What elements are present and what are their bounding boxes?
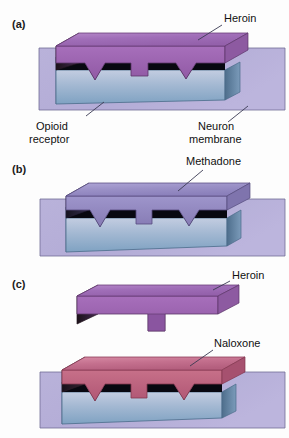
panel-c-label: (c) [12,278,26,290]
heroin-label-a: Heroin [224,12,256,24]
neuron-membrane-label-line2: membrane [189,133,242,145]
opioid-receptor-label-line2: receptor [29,133,70,145]
methadone-label-b: Methadone [186,155,241,167]
panel-c: (c) Heroin Naloxone [12,269,285,428]
opioid-receptor-label-line1: Opioid [36,120,68,132]
heroin-peg-shadow-c [148,314,165,331]
naloxone-top-c [62,357,245,370]
heroin-top-a [56,33,248,46]
figure-canvas: (a) Heroin Opioid receptor Neuron membra… [0,0,289,438]
methadone-top-b [66,183,250,196]
panel-b: (b) Methadone [12,155,285,256]
heroin-front-c [77,296,218,331]
opioid-receptor-figure: (a) Heroin Opioid receptor Neuron membra… [0,0,289,438]
heroin-top-c [77,285,239,296]
panel-a: (a) Heroin Opioid receptor Neuron membra… [12,12,285,145]
panel-a-label: (a) [12,18,26,30]
heroin-label-c: Heroin [232,269,264,281]
neuron-membrane-label-line1: Neuron [198,120,234,132]
panel-b-label: (b) [12,163,26,175]
naloxone-label-c: Naloxone [214,337,260,349]
